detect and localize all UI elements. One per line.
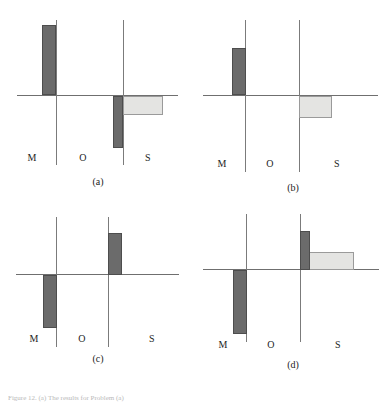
panel-caption-a: (a) <box>0 176 196 187</box>
category-label-o: O <box>72 333 92 345</box>
divider-line-m-o <box>245 20 246 172</box>
bar-dark-s <box>113 96 123 148</box>
bar-dark-m <box>233 270 247 334</box>
panel-b: M O S (b) <box>195 0 391 200</box>
bar-dark-m <box>42 25 56 95</box>
bar-dark-s <box>108 233 122 275</box>
divider-line-o-s <box>123 20 124 165</box>
divider-line-m-o <box>56 20 57 165</box>
category-label-s: S <box>142 333 162 345</box>
panel-caption-d: (d) <box>195 359 391 370</box>
category-label-s: S <box>327 158 347 170</box>
category-label-m: M <box>22 152 42 164</box>
bar-light-s <box>123 96 163 115</box>
bar-dark-m <box>232 48 246 95</box>
panel-c-plot: M O S <box>0 205 196 375</box>
panel-a: M O S (a) <box>0 0 196 200</box>
zero-axis-line <box>203 95 378 96</box>
panel-b-plot: M O S <box>195 0 391 170</box>
bar-dark-s <box>300 231 310 270</box>
category-label-s: S <box>328 339 348 351</box>
panel-c: M O S (c) <box>0 205 196 405</box>
category-label-o: O <box>261 339 281 351</box>
category-label-s: S <box>138 152 158 164</box>
category-label-o: O <box>260 158 280 170</box>
zero-axis-line <box>16 274 179 275</box>
figure-caption: Figure 12. (a) The results for Problem (… <box>8 394 386 403</box>
bar-light-s <box>299 96 332 118</box>
panel-caption-c: (c) <box>0 353 196 364</box>
panel-d-plot: M O S <box>195 205 391 375</box>
panel-a-plot: M O S <box>0 0 196 170</box>
category-label-o: O <box>73 152 93 164</box>
figure-root: M O S (a) M O S (b) M O S <box>0 0 391 405</box>
panel-caption-b: (b) <box>195 182 391 193</box>
panel-d: M O S (d) <box>195 205 391 405</box>
category-label-m: M <box>213 339 233 351</box>
category-label-m: M <box>212 158 232 170</box>
bar-dark-m <box>43 275 57 328</box>
category-label-m: M <box>24 333 44 345</box>
